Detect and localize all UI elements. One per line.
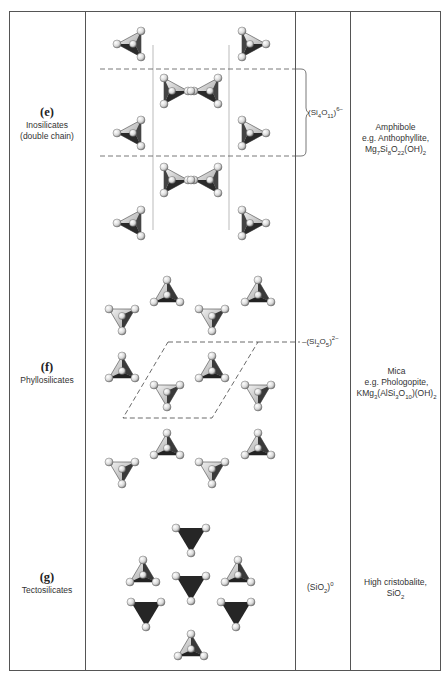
- row-e-class: Inosilicates: [26, 120, 68, 130]
- row-g-label: (g) Tectosilicates: [9, 570, 85, 596]
- row-e-unit-formula: (Si4O11)6−: [308, 108, 343, 117]
- sheet-structure: [105, 276, 300, 488]
- row-e-label: (e) Inosilicates (double chain): [9, 105, 85, 141]
- row-e-letter: (e): [9, 105, 85, 120]
- row-g-mineral: High cristobalite, SiO2: [350, 577, 441, 599]
- row-g-letter: (g): [9, 570, 85, 585]
- double-chain-structure: [100, 27, 309, 240]
- row-f-label: (f) Phyllosilicates: [9, 360, 85, 386]
- row-f-class: Phyllosilicates: [20, 375, 73, 385]
- row-e-mineral: Amphibole e.g. Anthophyllite, Mg7Si8O22(…: [350, 122, 441, 155]
- row-f-letter: (f): [9, 360, 85, 375]
- row-g-unit-formula: (SiO2)0: [307, 582, 334, 592]
- row-f-unit-formula: –(Si2O5)2−: [302, 337, 339, 346]
- row-g-class: Tectosilicates: [22, 585, 73, 595]
- row-e-subclass: (double chain): [20, 131, 74, 141]
- framework-structure: [126, 524, 255, 660]
- row-f-mineral: Mica e.g. Phologopite, KMg3(AlSi3O10)(OH…: [350, 366, 443, 399]
